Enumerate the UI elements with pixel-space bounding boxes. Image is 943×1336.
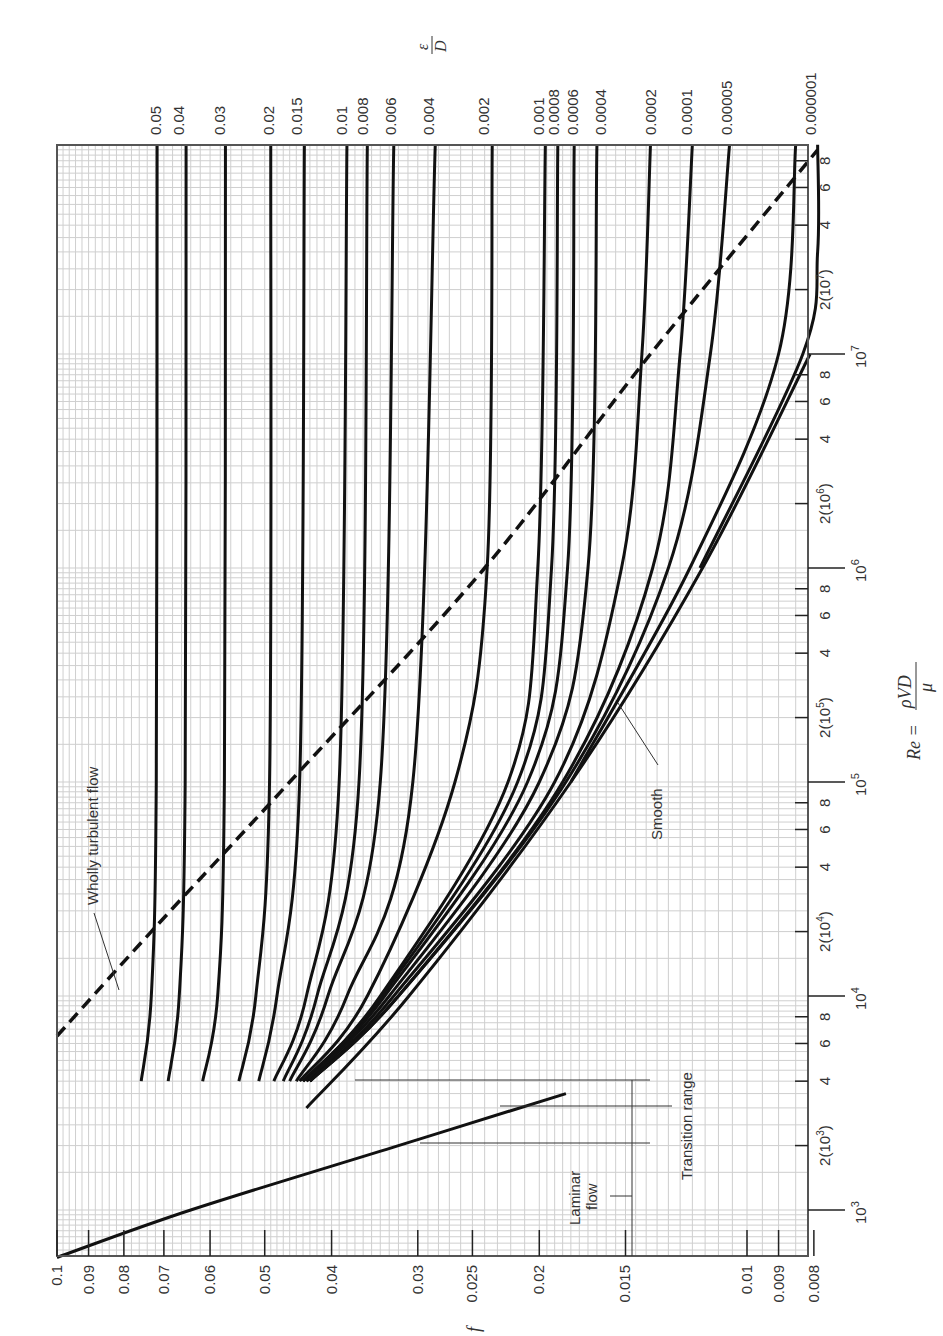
roughness-label: 0.0001 — [678, 89, 695, 135]
re-tick-label: 104 — [849, 987, 869, 1010]
laminar-label: Laminar — [566, 1171, 583, 1225]
re-tick-label: 8 — [816, 157, 833, 165]
curve-0-015 — [259, 145, 305, 1081]
re-tick-label: 105 — [849, 773, 869, 796]
re-tick-label: 2(103) — [815, 1125, 833, 1166]
roughness-label: 0.05 — [147, 106, 164, 135]
roughness-label: 0.0006 — [564, 89, 581, 135]
smooth-label: Smooth — [648, 788, 665, 840]
transition-range-label: Transition range — [678, 1072, 695, 1180]
re-tick-label: 103 — [849, 1201, 869, 1224]
f-tick-label: 0.08 — [115, 1265, 132, 1294]
re-tick-label: 8 — [816, 799, 833, 807]
re-axis-title: Re = ρVD μ — [895, 662, 936, 761]
re-tick-label: 2(106) — [815, 483, 833, 524]
roughness-label: 0.000001 — [802, 72, 819, 135]
roughness-label: 0.002 — [475, 97, 492, 135]
curve-0-04 — [168, 145, 186, 1081]
re-tick-label: 106 — [849, 559, 869, 582]
f-tick-label: 0.1 — [48, 1265, 65, 1286]
roughness-label: 0.008 — [354, 97, 371, 135]
svg-text:ρVD: ρVD — [895, 675, 915, 709]
curve-0-02 — [239, 145, 271, 1081]
f-tick-label: 0.05 — [256, 1265, 273, 1294]
f-tick-label: 0.008 — [805, 1265, 822, 1303]
roughness-label: 0.006 — [382, 97, 399, 135]
curve-0-000001 — [700, 145, 819, 568]
svg-text:μ: μ — [916, 683, 936, 693]
re-tick-label: 6 — [816, 611, 833, 619]
roughness-label: 0.04 — [170, 106, 187, 135]
re-tick-label: 6 — [816, 825, 833, 833]
roughness-axis-title: ε D — [414, 36, 449, 54]
roughness-curves — [57, 145, 819, 1258]
f-tick-label: 0.03 — [409, 1265, 426, 1294]
f-tick-label: 0.07 — [155, 1265, 172, 1294]
re-tick-label: 6 — [816, 183, 833, 191]
f-tick-label: 0.009 — [770, 1265, 787, 1303]
f-axis-title: f — [464, 1324, 484, 1332]
svg-text:Re =: Re = — [904, 724, 924, 761]
re-tick-label: 4 — [816, 863, 833, 871]
re-tick-label: 6 — [816, 397, 833, 405]
re-tick-label: 2(104) — [815, 911, 833, 952]
curve-0-002 — [300, 145, 493, 1081]
f-tick-label: 0.015 — [616, 1265, 633, 1303]
svg-text:ε: ε — [414, 43, 431, 50]
re-tick-label: 6 — [816, 1039, 833, 1047]
curve-laminar-flow — [57, 1094, 566, 1258]
relative-roughness-labels: 0.050.040.030.020.0150.010.0080.0060.004… — [147, 72, 819, 135]
f-tick-label: 0.02 — [530, 1265, 547, 1294]
roughness-label: 0.03 — [211, 106, 228, 135]
f-tick-label: 0.09 — [80, 1265, 97, 1294]
roughness-label: 0.015 — [288, 97, 305, 135]
roughness-label: 0.01 — [333, 106, 350, 135]
wholly-turbulent-label: Wholly turbulent flow — [84, 766, 101, 905]
f-tick-label: 0.025 — [463, 1265, 480, 1303]
curve-0-05 — [141, 145, 157, 1081]
roughness-label: 0.0008 — [545, 89, 562, 135]
re-tick-label: 4 — [816, 435, 833, 443]
re-tick-label: 2(107) — [815, 269, 833, 310]
re-tick-label: 107 — [849, 345, 869, 368]
roughness-label: 0.004 — [420, 97, 437, 135]
f-tick-label: 0.06 — [201, 1265, 218, 1294]
roughness-label: 0.00005 — [718, 81, 735, 135]
f-axis: 0.10.090.080.070.060.050.040.030.0250.02… — [48, 1230, 822, 1303]
laminar-label-2: flow — [583, 1183, 600, 1210]
moody-diagram: 0.10.090.080.070.060.050.040.030.0250.02… — [0, 0, 943, 1336]
re-tick-label: 8 — [816, 371, 833, 379]
f-tick-label: 0.01 — [738, 1265, 755, 1294]
re-tick-label: 2(105) — [815, 697, 833, 738]
re-tick-label: 8 — [816, 585, 833, 593]
roughness-label: 0.0004 — [592, 89, 609, 135]
re-tick-label: 4 — [816, 221, 833, 229]
roughness-label: 0.02 — [260, 106, 277, 135]
re-tick-label: 4 — [816, 649, 833, 657]
re-tick-label: 4 — [816, 1077, 833, 1085]
f-tick-label: 0.04 — [323, 1265, 340, 1294]
curve-0-0002 — [310, 145, 651, 1081]
curve-wholly-turbulent-flow-boundary — [57, 150, 818, 1036]
curve-0-03 — [203, 145, 226, 1081]
roughness-label: 0.0002 — [642, 89, 659, 135]
svg-text:D: D — [432, 40, 449, 53]
re-tick-label: 8 — [816, 1013, 833, 1021]
